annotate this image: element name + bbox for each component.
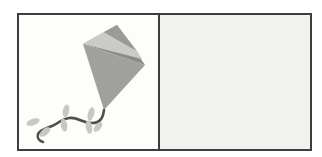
two-panel-frame xyxy=(17,13,312,151)
worksheet-crop xyxy=(0,0,322,157)
bow-leaf xyxy=(86,107,96,122)
kite-icon xyxy=(19,15,158,149)
bow-leaf xyxy=(25,117,40,128)
kite-panel xyxy=(19,15,160,149)
bow-leaf xyxy=(62,104,71,118)
empty-panel xyxy=(160,15,310,149)
